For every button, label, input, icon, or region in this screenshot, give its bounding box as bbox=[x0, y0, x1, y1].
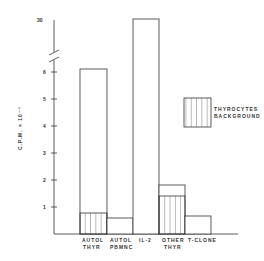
svg-text:30: 30 bbox=[37, 17, 43, 23]
y-axis bbox=[49, 20, 59, 234]
x-tick-labels: AUTOL THYR AUTOL PBMNC IL-2 OTHER THYR T… bbox=[82, 237, 217, 250]
svg-text:AUTOL: AUTOL bbox=[82, 237, 104, 243]
svg-text:BACKGROUND: BACKGROUND bbox=[214, 113, 261, 119]
svg-text:4: 4 bbox=[43, 123, 46, 129]
svg-text:T-CLONE: T-CLONE bbox=[188, 237, 217, 243]
y-tick-labels: 30 6 5 4 3 2 1 bbox=[37, 17, 46, 210]
svg-text:AUTOL: AUTOL bbox=[110, 237, 132, 243]
svg-text:PBMNC: PBMNC bbox=[110, 244, 133, 250]
svg-text:3: 3 bbox=[43, 150, 46, 156]
svg-text:1: 1 bbox=[43, 204, 46, 210]
svg-text:5: 5 bbox=[43, 96, 46, 102]
bar-autol-pbmnc bbox=[107, 218, 133, 234]
bar-other-thyr bbox=[159, 185, 185, 234]
bar-chart: 30 6 5 4 3 2 1 C.P.M. × 10⁻³ AUTOL bbox=[0, 0, 264, 261]
svg-text:OTHER: OTHER bbox=[162, 237, 185, 243]
bar-il-2 bbox=[133, 19, 159, 234]
svg-text:IL-2: IL-2 bbox=[139, 237, 152, 243]
bar-autol-thyr bbox=[80, 69, 107, 234]
svg-text:THYROCYTES: THYROCYTES bbox=[214, 106, 258, 112]
bar-t-clone bbox=[185, 216, 211, 234]
svg-text:THYR: THYR bbox=[83, 244, 101, 250]
legend: THYROCYTES BACKGROUND bbox=[184, 98, 261, 127]
svg-text:6: 6 bbox=[43, 69, 46, 75]
legend-swatch-vertical-hatch bbox=[184, 98, 211, 127]
svg-text:2: 2 bbox=[43, 177, 46, 183]
svg-text:THYR: THYR bbox=[164, 244, 182, 250]
y-axis-label: C.P.M. × 10⁻³ bbox=[17, 106, 23, 150]
